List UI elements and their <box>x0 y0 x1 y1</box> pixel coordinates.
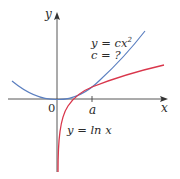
question-label: c = ? <box>91 50 121 62</box>
parabola-exponent: 2 <box>127 36 131 44</box>
diagram-canvas: y x 0 a y = cx2 c = ? y = ln x <box>0 0 180 179</box>
log-curve <box>58 65 164 172</box>
x-axis-label: x <box>161 102 168 114</box>
y-axis-label: y <box>45 8 52 20</box>
tick-a-label: a <box>89 104 96 116</box>
graph-svg <box>0 0 180 179</box>
log-equation: y = ln x <box>67 125 112 137</box>
origin-label: 0 <box>48 103 55 115</box>
